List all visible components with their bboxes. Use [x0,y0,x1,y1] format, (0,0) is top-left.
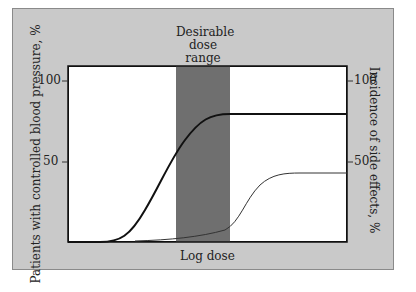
x-axis-label: Log dose [180,249,235,263]
efficacy-curve [68,114,347,242]
left-y-axis-label: Patients with controlled blood pressure,… [29,24,43,283]
side-effect-curve [135,173,347,241]
left-tick-50: 50 [43,154,58,168]
right-y-axis-label: Incidence of side effects, % [367,67,381,234]
desirable-dose-label: Desirable dose range [176,26,230,65]
